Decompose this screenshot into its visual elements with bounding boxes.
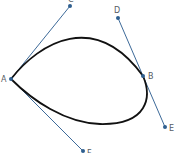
bezier-diagram: A B C D E F <box>0 0 175 153</box>
label-b: B <box>148 72 154 81</box>
point-d[interactable] <box>116 16 120 20</box>
label-f: F <box>87 149 92 153</box>
point-a[interactable] <box>9 77 13 81</box>
point-f[interactable] <box>81 149 85 153</box>
point-b[interactable] <box>141 74 145 78</box>
label-e: E <box>169 124 174 133</box>
label-c: C <box>68 0 74 4</box>
point-c[interactable] <box>68 4 72 8</box>
point-e[interactable] <box>163 125 167 129</box>
label-a: A <box>1 75 7 84</box>
label-d: D <box>114 6 120 15</box>
bezier-curve <box>11 38 147 124</box>
diagram-svg: A B C D E F <box>0 0 175 153</box>
